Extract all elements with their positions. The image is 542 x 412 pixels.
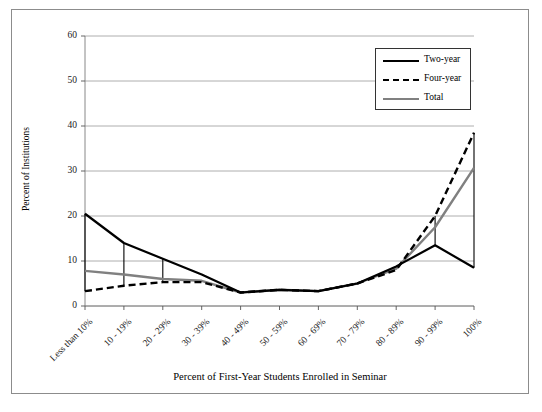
chart-legend: Two-year Four-year Total — [375, 48, 471, 110]
legend-item-total: Total — [376, 89, 472, 108]
legend-label-total: Total — [424, 92, 443, 102]
legend-key-four-year — [383, 79, 419, 82]
legend-key-two-year — [383, 60, 419, 63]
y-tick-label: 30 — [39, 165, 77, 175]
y-tick-label: 10 — [39, 255, 77, 265]
y-axis-title: Percent of Institutions — [21, 109, 31, 229]
y-tick-label: 60 — [39, 30, 77, 40]
y-tick-label: 40 — [39, 120, 77, 130]
y-tick-label: 20 — [39, 210, 77, 220]
legend-item-two-year: Two-year — [376, 51, 472, 70]
y-tick-label: 50 — [39, 75, 77, 85]
series-line-total — [85, 168, 474, 293]
droplines-group — [85, 133, 474, 291]
x-axis-title: Percent of First-Year Students Enrolled … — [90, 371, 470, 382]
legend-key-total — [383, 98, 419, 101]
series-lines-group — [85, 133, 474, 293]
y-tick-label: 0 — [39, 300, 77, 310]
series-line-four-year — [85, 133, 474, 293]
series-line-two-year — [85, 214, 474, 293]
legend-item-four-year: Four-year — [376, 70, 472, 89]
legend-label-four-year: Four-year — [424, 73, 461, 83]
legend-label-two-year: Two-year — [424, 54, 460, 64]
chart-figure: 0102030405060 Less than 10%10 - 19%20 - … — [0, 0, 542, 412]
